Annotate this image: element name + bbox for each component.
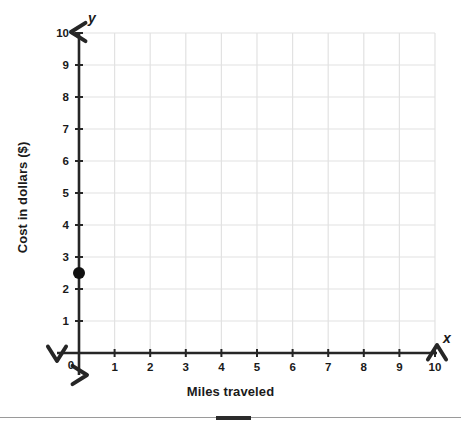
plot-area: 12345678910123456789100 yx: [0, 0, 461, 410]
y-tick-label: 1: [63, 315, 70, 327]
y-tick-label: 2: [63, 283, 69, 295]
axis-letters: yx: [87, 10, 452, 346]
tick-marks: [75, 33, 435, 357]
origin-label: 0: [68, 359, 74, 371]
x-tick-label: 4: [218, 361, 225, 373]
data-points[interactable]: [73, 267, 85, 279]
data-point[interactable]: [73, 267, 85, 279]
y-tick-label: 7: [63, 123, 69, 135]
gridlines: [79, 33, 435, 353]
x-tick-label: 9: [396, 361, 402, 373]
x-tick-label: 2: [147, 361, 153, 373]
x-tick-label: 6: [289, 361, 295, 373]
y-tick-label: 4: [63, 219, 70, 231]
y-tick-label: 10: [56, 27, 69, 39]
y-axis-title: Cost in dollars ($): [15, 118, 30, 278]
scrollbar-thumb[interactable]: [216, 416, 251, 420]
y-tick-label: 6: [63, 155, 69, 167]
x-tick-label: 7: [325, 361, 331, 373]
y-tick-label: 5: [63, 187, 70, 199]
x-tick-label: 10: [429, 361, 442, 373]
x-axis-letter: x: [442, 330, 452, 346]
coordinate-graph: 12345678910123456789100 yx Cost in dolla…: [0, 0, 461, 410]
y-tick-label: 8: [63, 91, 70, 103]
x-tick-label: 8: [361, 361, 368, 373]
x-axis-title: Miles traveled: [0, 384, 461, 399]
x-tick-label: 5: [254, 361, 261, 373]
y-axis-letter: y: [87, 10, 97, 26]
x-tick-label: 1: [111, 361, 118, 373]
x-tick-label: 3: [183, 361, 189, 373]
horizontal-scrollbar[interactable]: [0, 416, 461, 420]
y-tick-label: 3: [63, 251, 69, 263]
y-tick-label: 9: [63, 59, 69, 71]
